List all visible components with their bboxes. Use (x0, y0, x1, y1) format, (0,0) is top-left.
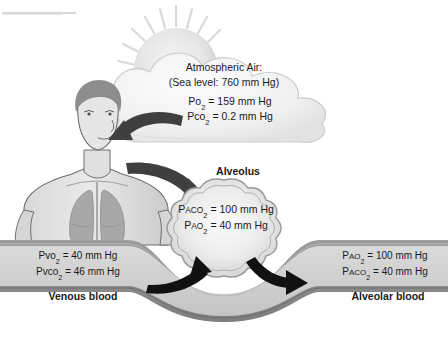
pvco2-value: = 46 mm Hg (65, 266, 120, 277)
pvco2-symbol: Pvco (36, 266, 58, 277)
sea-level-pressure: (Sea level: 760 mm Hg) (169, 76, 279, 88)
pvo2-symbol: Pvo (39, 250, 56, 261)
po2-symbol: Po (188, 95, 201, 107)
venous-pvco2: Pvco2 = 46 mm Hg (36, 266, 120, 277)
pco2-subscript: 2 (205, 118, 209, 127)
ab-paco2-smallcaps: ACO (349, 268, 366, 277)
alveolus-paco2: PACO2 = 100 mm Hg (178, 203, 274, 215)
alveolar-blood-paco2: PACO2 = 40 mm Hg (342, 266, 428, 277)
alveolar-blood-pao2: PAO2 = 100 mm Hg (342, 250, 427, 261)
paco2-symbol: P (178, 203, 185, 215)
po2-value: = 159 mm Hg (208, 95, 271, 107)
diagram-canvas: Atmospheric Air: (Sea level: 760 mm Hg) … (0, 0, 448, 337)
ab-pao2-symbol: P (342, 250, 349, 261)
ab-pao2-value: = 100 mm Hg (367, 250, 427, 261)
atmospheric-air-heading: Atmospheric Air: (186, 61, 262, 73)
pvo2-subscript: 2 (56, 257, 60, 266)
paco2-value: = 100 mm Hg (210, 203, 273, 215)
atmospheric-pco2: Pco2 = 0.2 mm Hg (187, 110, 273, 122)
scan-artifact-line (2, 12, 76, 15)
pco2-symbol: Pco (187, 110, 205, 122)
ab-pao2-subscript: 2 (361, 257, 365, 266)
pao2-symbol: P (184, 219, 191, 231)
pco2-value: = 0.2 mm Hg (212, 110, 272, 122)
venous-pvo2: Pvo2 = 40 mm Hg (39, 250, 118, 261)
paco2-smallcaps: ACO (185, 205, 203, 215)
pao2-smallcaps: AO (191, 221, 203, 231)
ab-paco2-value: = 40 mm Hg (373, 266, 428, 277)
pvo2-value: = 40 mm Hg (63, 250, 118, 261)
ab-pao2-smallcaps: AO (349, 252, 361, 261)
ab-paco2-subscript: 2 (366, 273, 370, 282)
venous-blood-label: Venous blood (49, 290, 118, 302)
pvco2-subscript: 2 (58, 273, 62, 282)
ab-paco2-symbol: P (342, 266, 349, 277)
pao2-subscript: 2 (203, 227, 207, 236)
alveolar-blood-label: Alveolar blood (352, 290, 425, 302)
alveolus-pao2: PAO2 = 40 mm Hg (184, 219, 268, 231)
pao2-value: = 40 mm Hg (210, 219, 267, 231)
atmospheric-po2: Po2 = 159 mm Hg (188, 95, 271, 107)
alveolus-label: Alveolus (216, 165, 260, 177)
